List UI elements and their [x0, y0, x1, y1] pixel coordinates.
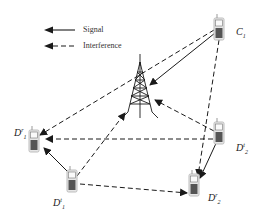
- link-c1-to-dr2: [198, 40, 219, 176]
- interference-arrow-icon: [44, 43, 53, 50]
- label-dr1: Dr1: [14, 125, 27, 142]
- label-c1: C1: [236, 27, 246, 41]
- signal-links: [44, 33, 218, 178]
- legend: [44, 27, 75, 50]
- d2d-interference-diagram: Signal Interference C1 Dr1 Dt1 Dt2 Dr2: [0, 0, 260, 212]
- diagram-canvas: [0, 0, 260, 212]
- phone-dr1-icon: [29, 126, 39, 152]
- phone-dr2-icon: [189, 170, 199, 196]
- link-c1-to-dr1: [40, 30, 214, 135]
- label-dt2: Dt2: [236, 140, 248, 157]
- legend-signal-label: Signal: [83, 25, 103, 34]
- link-dt1-to-dr1: [44, 148, 68, 172]
- link-dt1-to-bs: [77, 113, 125, 176]
- phone-dt1-icon: [67, 166, 77, 192]
- interference-links: [40, 30, 219, 193]
- phone-dt2-icon: [214, 118, 224, 144]
- link-dt1-to-dr2: [80, 184, 187, 193]
- phone-c1-icon: [214, 14, 224, 40]
- legend-interference-label: Interference: [83, 41, 122, 50]
- label-dr2: Dr2: [208, 190, 221, 207]
- signal-arrow-icon: [44, 27, 53, 34]
- link-c1-to-bs: [150, 33, 215, 85]
- cell-tower-icon: [122, 54, 158, 118]
- label-dt1: Dt1: [53, 195, 65, 212]
- link-dt2-to-bs: [155, 100, 214, 131]
